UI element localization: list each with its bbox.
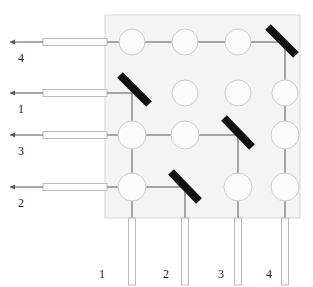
- node-circle-r3-c2: [171, 121, 199, 149]
- input-arrow-3: [10, 132, 15, 137]
- diagram-canvas: [0, 0, 313, 287]
- node-circle-r3-c4: [271, 121, 299, 149]
- node-circle-r1-c2: [172, 29, 198, 55]
- output-port-label-3: 3: [218, 268, 224, 280]
- input-port-label-2: 2: [18, 197, 24, 209]
- node-circle-r4-c4: [271, 173, 299, 201]
- input-arrow-2: [10, 184, 15, 189]
- node-circle-r4-c3: [224, 173, 252, 201]
- node-circle-r2-c3: [225, 80, 251, 106]
- input-port-label-1: 1: [18, 103, 24, 115]
- node-circle-r2-c4: [272, 80, 298, 106]
- input-arrow-1: [10, 90, 15, 95]
- output-waveguides: [129, 218, 289, 285]
- node-circle-r1-c1: [119, 29, 145, 55]
- output-waveguide-3: [235, 218, 242, 285]
- input-waveguide-4: [43, 39, 107, 46]
- output-port-label-2: 2: [163, 268, 169, 280]
- input-waveguides: [43, 39, 107, 191]
- output-port-label-4: 4: [266, 268, 272, 280]
- output-port-label-1: 1: [99, 268, 105, 280]
- node-circle-r4-c1: [118, 173, 146, 201]
- input-port-label-4: 4: [18, 52, 24, 64]
- node-circle-r1-c3: [225, 29, 251, 55]
- input-waveguide-2: [43, 184, 107, 191]
- input-port-label-3: 3: [18, 145, 24, 157]
- node-circle-r2-c2: [172, 80, 198, 106]
- output-waveguide-4: [282, 218, 289, 285]
- input-arrow-heads: [10, 39, 43, 189]
- output-waveguide-2: [182, 218, 189, 285]
- output-waveguide-1: [129, 218, 136, 285]
- input-waveguide-1: [43, 90, 107, 97]
- node-circle-r3-c1: [118, 121, 146, 149]
- optical-switch-matrix-figure: 41321234: [0, 0, 313, 287]
- input-waveguide-3: [43, 132, 107, 139]
- input-arrow-4: [10, 39, 15, 44]
